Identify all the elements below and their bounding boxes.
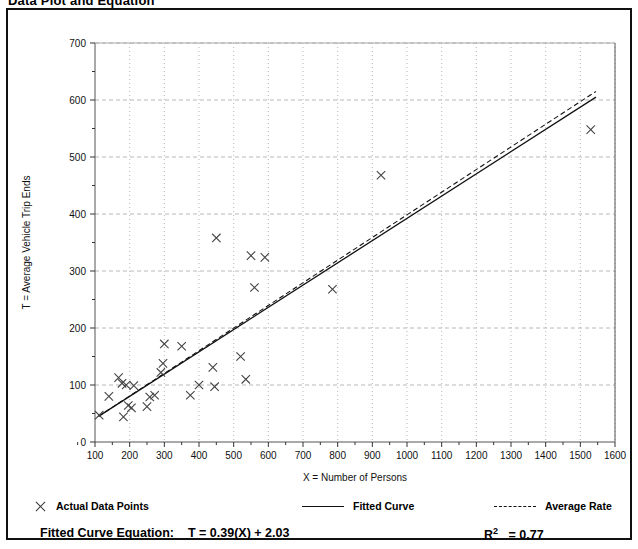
equation-row: Fitted Curve Equation: T = 0.39(X) + 2.0… (16, 524, 638, 548)
r-value: = 0.77 (509, 528, 544, 542)
x-tick-label: 900 (364, 450, 381, 461)
scatter-chart: 1002003004005006007008009001000110012001… (8, 10, 630, 538)
x-tick-label: 1100 (431, 450, 453, 461)
data-point (261, 253, 269, 261)
x-tick-label: 100 (87, 450, 104, 461)
dashed-line-icon (494, 506, 536, 507)
data-point (186, 391, 194, 399)
chart-legend: Actual Data Points Fitted Curve Average … (16, 495, 638, 521)
data-point (236, 352, 244, 360)
x-tick-label: 400 (191, 450, 208, 461)
series-layer (98, 91, 595, 416)
y-tick-label: 400 (69, 209, 86, 220)
legend-label-average-rate: Average Rate (545, 500, 612, 512)
grid-layer (95, 43, 615, 442)
y-tick-label: 700 (69, 38, 86, 49)
data-point (377, 171, 385, 179)
y-tick-label: 200 (69, 323, 86, 334)
legend-label-fitted-curve: Fitted Curve (353, 500, 414, 512)
data-point (95, 411, 103, 419)
x-tick-label: 1200 (465, 450, 488, 461)
legend-item-actual-data-points: Actual Data Points (34, 495, 149, 517)
fitted-curve-equation: Fitted Curve Equation: T = 0.39(X) + 2.0… (40, 526, 289, 540)
data-point (160, 340, 168, 348)
axis-layer (78, 43, 615, 447)
series-line-average-rate (98, 91, 595, 416)
legend-label-actual-data-points: Actual Data Points (56, 500, 149, 512)
data-point (212, 234, 220, 242)
x-tick-label: 800 (329, 450, 346, 461)
data-point (143, 402, 151, 410)
data-point (119, 413, 127, 421)
data-point (177, 342, 185, 350)
data-point (250, 283, 258, 291)
solid-line-icon (302, 506, 344, 507)
data-point (159, 359, 167, 367)
y-axis-title: T = Average Vehicle Trip Ends (21, 176, 32, 310)
y-tick-label: 100 (69, 380, 86, 391)
y-tick-label: 300 (69, 266, 86, 277)
equation-label: Fitted Curve Equation: (40, 526, 174, 540)
x-marker-icon (34, 500, 47, 513)
y-tick-label: 600 (69, 95, 86, 106)
legend-item-fitted-curve: Fitted Curve (302, 495, 414, 517)
equation-formula: T = 0.39(X) + 2.03 (188, 526, 289, 540)
series-line-fitted-curve (98, 97, 595, 416)
data-point (247, 251, 255, 259)
data-point (105, 392, 113, 400)
data-point (209, 363, 217, 371)
legend-item-average-rate: Average Rate (494, 495, 612, 517)
figure-frame: 1002003004005006007008009001000110012001… (6, 8, 632, 540)
data-point (587, 125, 595, 133)
page-title: Data Plot and Equation (8, 0, 155, 8)
data-points-layer (95, 125, 595, 421)
x-tick-label: 300 (156, 450, 173, 461)
x-tick-label: 500 (225, 450, 242, 461)
x-tick-label: 200 (121, 450, 138, 461)
x-tick-label: 1600 (604, 450, 627, 461)
r-exponent: 2 (493, 526, 498, 536)
data-point (242, 375, 250, 383)
data-point (328, 285, 336, 293)
x-tick-label: 1000 (396, 450, 419, 461)
r-symbol: R (484, 528, 493, 542)
x-tick-label: 600 (260, 450, 277, 461)
y-tick-label: 0 (80, 437, 86, 448)
x-axis-title: X = Number of Persons (303, 472, 407, 483)
data-point (127, 404, 135, 412)
x-tick-label: 1400 (535, 450, 558, 461)
y-tick-label: 500 (69, 152, 86, 163)
r-squared-value: R2 = 0.77 (484, 526, 544, 542)
x-tick-label: 1300 (500, 450, 523, 461)
data-point (130, 381, 138, 389)
x-tick-label: 700 (295, 450, 312, 461)
data-point (210, 383, 218, 391)
x-tick-label: 1500 (569, 450, 592, 461)
